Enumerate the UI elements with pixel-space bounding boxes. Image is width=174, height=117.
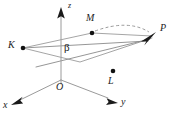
point-dot-M: [90, 31, 95, 36]
point-label-L: L: [108, 76, 114, 86]
arrowhead-P: [141, 32, 156, 46]
point-label-P: P: [160, 23, 166, 33]
diagonal-segment: [36, 39, 150, 67]
diagonal-to-P: [36, 39, 150, 67]
P-arrowhead: [141, 32, 156, 46]
axis-x-line: [20, 80, 61, 100]
axis-label-y: y: [121, 97, 125, 107]
axis-label-z: z: [68, 2, 71, 10]
geometry-figure: K M L P O β z x y: [0, 0, 174, 117]
dashed-arc-M-to-P: [95, 25, 149, 32]
point-label-M: M: [86, 13, 94, 23]
point-dot-L: [111, 69, 116, 74]
axis-label-x: x: [3, 100, 7, 110]
point-label-K: K: [8, 40, 15, 50]
point-label-O: O: [56, 82, 63, 92]
plane-top-edge: [23, 33, 152, 48]
point-dot-K: [21, 46, 26, 51]
axis-x: [11, 80, 61, 105]
axis-y-arrowhead: [106, 98, 118, 105]
axis-x-arrowhead: [11, 97, 23, 105]
dashed-arc-path: [95, 25, 149, 32]
plane-region-beta: [23, 33, 152, 62]
axis-y-line: [61, 80, 108, 98]
angle-label-beta: β: [64, 42, 70, 53]
